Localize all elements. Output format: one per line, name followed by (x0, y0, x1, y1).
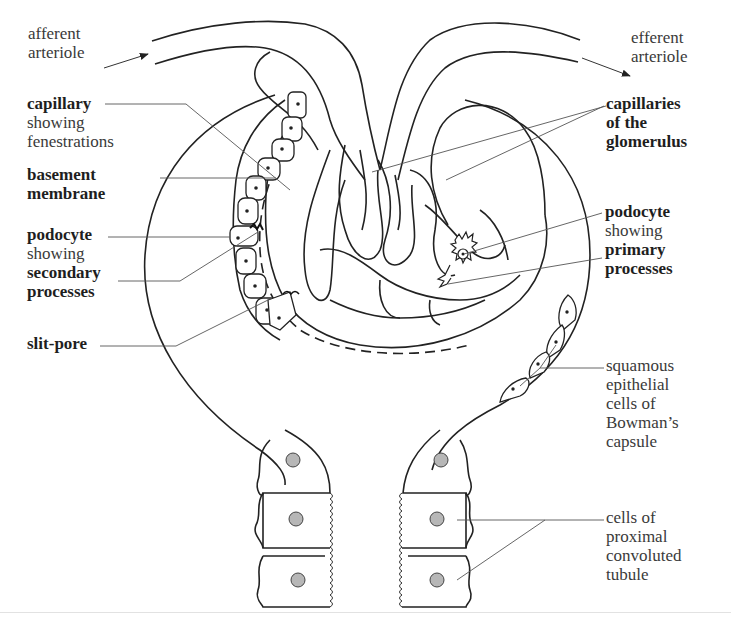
label-line: capillaries (606, 94, 687, 113)
label-line: epithelial (606, 375, 679, 394)
squamous-cells (500, 295, 576, 402)
label-line: afferent (28, 24, 85, 43)
label-line: membrane (27, 184, 105, 203)
label-line: showing (27, 244, 101, 263)
afferent-arrow-icon (104, 54, 148, 68)
label-line: arteriole (28, 43, 85, 62)
label-line: podocyte (605, 202, 673, 221)
label-slit-pore: slit-pore (27, 334, 87, 353)
label-podocyte-secondary-processes: podocyte showing secondary processes (27, 225, 101, 301)
label-line: podocyte (27, 225, 101, 244)
label-line: of the (606, 113, 687, 132)
efferent-arrow-icon (582, 58, 630, 76)
label-line: slit-pore (27, 334, 87, 353)
podocyte-right (438, 232, 477, 287)
bowmans-capsule-outer-wall (145, 95, 590, 485)
label-line: arteriole (631, 47, 688, 66)
label-line: capsule (606, 432, 679, 451)
label-line: cells of (606, 394, 679, 413)
label-line: proximal (606, 527, 682, 546)
label-squamous-epithelial-cells: squamous epithelial cells of Bowman’s ca… (606, 356, 679, 451)
label-line: showing (27, 113, 114, 132)
efferent-arteriole (380, 23, 580, 225)
label-line: efferent (631, 28, 688, 47)
label-line: glomerulus (606, 132, 687, 151)
label-line: cells of (606, 508, 682, 527)
label-line: processes (605, 259, 673, 278)
label-capillary-fenestrations: capillary showing fenestrations (27, 94, 114, 151)
page-bottom-divider (0, 612, 731, 613)
label-line: tubule (606, 565, 682, 584)
label-podocyte-primary-processes: podocyte showing primary processes (605, 202, 673, 278)
label-afferent-arteriole: afferent arteriole (28, 24, 85, 62)
label-line: fenestrations (27, 132, 114, 151)
afferent-arteriole (152, 21, 380, 180)
glomerular-capillaries (304, 145, 520, 325)
label-line: showing (605, 221, 673, 240)
label-line: Bowman’s (606, 413, 679, 432)
label-line: primary (605, 240, 673, 259)
label-proximal-convoluted-tubule: cells of proximal convoluted tubule (606, 508, 682, 584)
label-capillaries-glomerulus: capillaries of the glomerulus (606, 94, 687, 151)
proximal-tubule-cells (255, 430, 473, 607)
label-line: basement (27, 165, 105, 184)
label-efferent-arteriole: efferent arteriole (631, 28, 688, 66)
label-line: capillary (27, 94, 114, 113)
label-basement-membrane: basement membrane (27, 165, 105, 203)
label-line: processes (27, 282, 101, 301)
leader-lines (100, 104, 606, 580)
label-line: secondary (27, 263, 101, 282)
label-line: squamous (606, 356, 679, 375)
label-line: convoluted (606, 546, 682, 565)
